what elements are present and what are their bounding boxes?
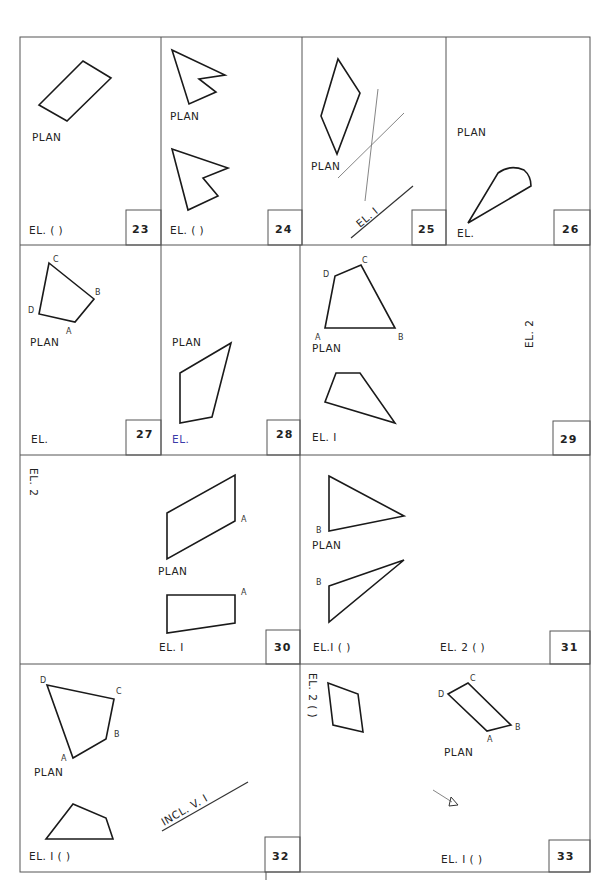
cell-number: 31 <box>561 641 578 654</box>
cell-number: 23 <box>132 223 149 236</box>
point-label: C <box>470 674 476 683</box>
cell-number: 30 <box>274 641 291 654</box>
plan-shape <box>172 50 225 104</box>
elevation-2-label: EL. 2 <box>523 320 535 348</box>
plan-rectangle <box>39 61 111 121</box>
cell-number: 29 <box>560 433 577 446</box>
elevation-quadrilateral <box>180 343 231 423</box>
cell-number: 28 <box>276 428 293 441</box>
plan-label: PLAN <box>457 126 486 138</box>
point-label: B <box>515 723 521 732</box>
point-label: B <box>398 333 404 342</box>
elevation-1-label: EL. I <box>159 641 184 653</box>
cell-number: 24 <box>275 223 292 236</box>
orthographic-projection-worksheet: PLAN EL. ( ) 23 PLAN EL. ( ) 24 PLAN EL.… <box>0 0 604 885</box>
point-label: D <box>40 676 46 685</box>
elevation-label: EL. ( ) <box>29 224 63 236</box>
point-label: C <box>116 687 122 696</box>
elevation-1-label: EL. I <box>312 431 337 443</box>
elevation-shape <box>46 804 113 839</box>
point-label: D <box>28 306 34 315</box>
cell-number: 32 <box>272 850 289 863</box>
plan-rhombus <box>321 59 360 154</box>
plan-label: PLAN <box>312 342 341 354</box>
plan-label: PLAN <box>34 766 63 778</box>
arrow-shaft <box>433 790 452 802</box>
point-label: A <box>66 327 72 336</box>
plan-label: PLAN <box>444 746 473 758</box>
number-boxes <box>126 210 590 872</box>
point-label: C <box>362 256 368 265</box>
projector-line <box>338 113 404 178</box>
elevation-2-label: EL. 2 <box>28 468 40 496</box>
plan-label: PLAN <box>172 336 201 348</box>
cell-29: D C A B PLAN EL. I EL. 2 29 <box>312 256 577 446</box>
point-label: A <box>315 333 321 342</box>
point-label: A <box>241 515 247 524</box>
plan-label: PLAN <box>32 131 61 143</box>
elevation-2-shape <box>328 683 363 732</box>
elevation-2-label: EL. 2 ( ) <box>440 641 485 653</box>
plan-label: PLAN <box>30 336 59 348</box>
cell-number: 27 <box>136 428 153 441</box>
elevation-triangle <box>329 560 404 622</box>
point-label: B <box>316 578 322 587</box>
point-label: D <box>323 270 329 279</box>
reference-line-label: INCL. V. I <box>159 792 210 828</box>
cell-33: EL. 2 ( ) C D B A PLAN EL. I ( ) 33 <box>307 673 574 865</box>
plan-quadrilateral <box>47 685 114 758</box>
elevation-label: EL. ( ) <box>170 224 204 236</box>
cell-31: B PLAN B EL.I ( ) EL. 2 ( ) 31 <box>312 476 578 654</box>
plan-label: PLAN <box>311 160 340 172</box>
cell-26: PLAN EL. 26 <box>457 126 579 239</box>
point-label: B <box>114 730 120 739</box>
point-label: A <box>61 754 67 763</box>
plan-parallelogram <box>167 475 235 559</box>
point-label: A <box>487 735 493 744</box>
cell-28: PLAN EL. 28 <box>172 336 293 445</box>
plan-parallelogram <box>448 683 511 731</box>
elevation-quadrilateral <box>167 595 235 633</box>
elevation-1-label: EL. I ( ) <box>441 853 483 865</box>
plan-label: PLAN <box>312 539 341 551</box>
elevation-sector <box>468 168 531 223</box>
plan-quadrilateral <box>325 265 395 328</box>
plan-label: PLAN <box>170 110 199 122</box>
arrow-head <box>449 797 458 806</box>
reference-line <box>351 186 413 238</box>
elevation-1-label: EL.I ( ) <box>313 641 351 653</box>
elevation-2-label: EL. 2 ( ) <box>307 673 319 718</box>
cell-number: 26 <box>562 223 579 236</box>
cell-27: C B D A PLAN EL. 27 <box>28 255 153 445</box>
point-label: B <box>95 288 101 297</box>
elevation-label: EL. <box>457 227 474 239</box>
plan-triangle <box>329 476 404 531</box>
point-label: C <box>53 255 59 264</box>
inclined-reference-line <box>162 782 248 831</box>
cell-24: PLAN EL. ( ) 24 <box>170 50 292 236</box>
cell-32: D C B A PLAN INCL. V. I EL. I ( ) 32 <box>29 676 289 863</box>
point-label: A <box>241 588 247 597</box>
cell-number: 25 <box>418 223 435 236</box>
arrow-icon <box>433 790 458 806</box>
cell-25: PLAN EL. I 25 <box>311 59 435 238</box>
point-label: D <box>438 690 444 699</box>
elevation-label: EL. <box>172 433 189 445</box>
grid-lines <box>20 37 590 880</box>
point-label: B <box>316 526 322 535</box>
elevation-1-label: EL. I ( ) <box>29 850 71 862</box>
elevation-quadrilateral <box>325 373 395 423</box>
elevation-shape <box>172 149 228 210</box>
cell-number: 33 <box>557 850 574 863</box>
elevation-label: EL. <box>31 433 48 445</box>
plan-quadrilateral <box>39 263 94 322</box>
plan-label: PLAN <box>158 565 187 577</box>
cell-30: EL. 2 A PLAN A EL. I 30 <box>28 468 291 654</box>
